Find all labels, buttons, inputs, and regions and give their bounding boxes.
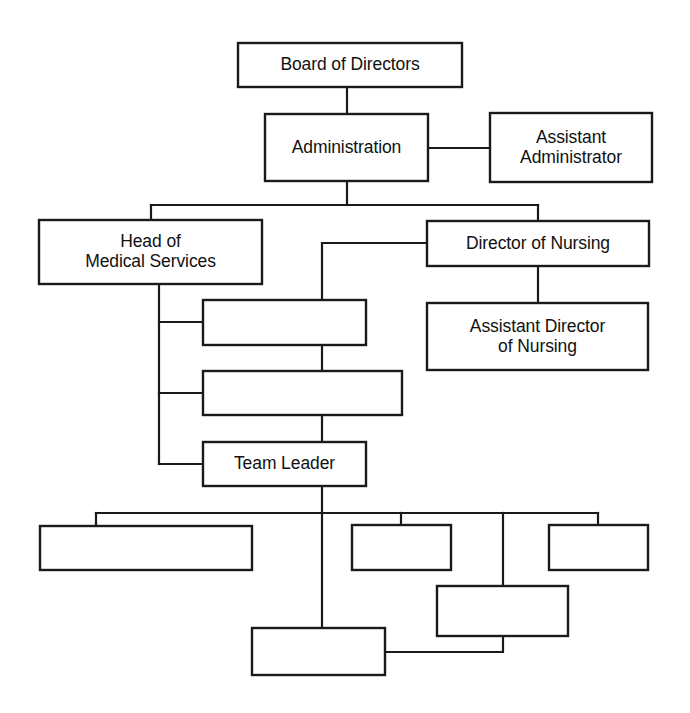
org-chart-svg bbox=[0, 0, 690, 713]
node-staff-4[interactable] bbox=[437, 586, 568, 636]
connector-staff-4-to-staff-5 bbox=[385, 636, 503, 652]
node-medical-unit-1[interactable] bbox=[203, 300, 366, 345]
node-assistant-director-of-nursing[interactable] bbox=[427, 303, 648, 370]
node-staff-2[interactable] bbox=[352, 525, 451, 570]
node-head-of-medical-services[interactable] bbox=[39, 220, 262, 284]
node-administration[interactable] bbox=[265, 114, 428, 181]
connector-dir-nursing-to-center-spine bbox=[322, 243, 427, 300]
node-staff-3[interactable] bbox=[549, 525, 648, 570]
node-team-leader[interactable] bbox=[203, 442, 366, 486]
node-director-of-nursing[interactable] bbox=[427, 221, 649, 266]
node-board-of-directors[interactable] bbox=[238, 43, 462, 87]
node-layer bbox=[39, 43, 652, 675]
org-chart-canvas: Board of Directors Administration Assist… bbox=[0, 0, 690, 713]
node-staff-1[interactable] bbox=[40, 526, 252, 570]
node-assistant-administrator[interactable] bbox=[490, 113, 652, 182]
node-staff-5[interactable] bbox=[252, 628, 385, 675]
node-medical-unit-2[interactable] bbox=[203, 371, 402, 415]
